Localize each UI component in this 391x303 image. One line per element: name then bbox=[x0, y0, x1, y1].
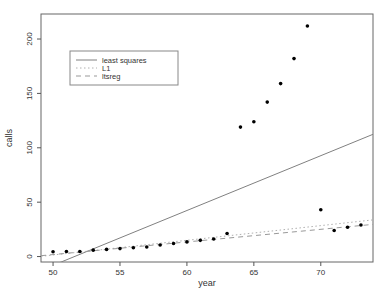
regression-line-L1 bbox=[41, 220, 373, 256]
y-tick-label: 150 bbox=[25, 86, 34, 100]
data-point bbox=[252, 120, 256, 124]
regression-lines bbox=[41, 134, 373, 270]
data-point bbox=[132, 246, 136, 250]
x-tick-label: 50 bbox=[49, 268, 58, 277]
y-tick-label: 100 bbox=[25, 141, 34, 155]
x-tick-label: 60 bbox=[182, 268, 191, 277]
data-point bbox=[306, 24, 310, 28]
data-point bbox=[118, 247, 122, 251]
data-point bbox=[279, 82, 283, 86]
data-point bbox=[65, 250, 69, 254]
data-point bbox=[292, 57, 296, 61]
y-tick-label: 200 bbox=[25, 32, 34, 46]
y-tick-label: 50 bbox=[25, 197, 34, 206]
legend: least squares L1 ltsreg bbox=[70, 51, 178, 85]
y-axis-title: calls bbox=[4, 129, 14, 148]
data-point bbox=[51, 250, 55, 254]
y-tick-label: 0 bbox=[25, 254, 34, 259]
regression-line-ltsreg bbox=[41, 224, 373, 255]
data-point bbox=[91, 248, 95, 252]
data-point bbox=[265, 100, 269, 104]
legend-label-ltsreg: ltsreg bbox=[102, 72, 120, 81]
data-point bbox=[212, 237, 216, 241]
data-point bbox=[78, 250, 82, 254]
data-point bbox=[319, 208, 323, 212]
x-tick-label: 70 bbox=[316, 268, 325, 277]
scatter-plot-figure: 5055606570 050100150200 year calls least… bbox=[0, 0, 391, 303]
data-point bbox=[359, 223, 363, 227]
x-axis: 5055606570 bbox=[49, 262, 326, 277]
data-point bbox=[145, 245, 149, 249]
data-point bbox=[225, 232, 229, 236]
chart-canvas: 5055606570 050100150200 year calls least… bbox=[0, 0, 391, 303]
regression-line-least-squares bbox=[41, 134, 373, 270]
data-point bbox=[172, 242, 176, 246]
x-tick-label: 65 bbox=[249, 268, 258, 277]
y-axis: 050100150200 bbox=[25, 32, 41, 259]
data-point bbox=[158, 243, 162, 247]
data-point bbox=[332, 229, 336, 233]
x-axis-title: year bbox=[198, 278, 216, 288]
data-point bbox=[199, 239, 203, 243]
data-point bbox=[239, 125, 243, 129]
x-tick-label: 55 bbox=[116, 268, 125, 277]
data-point bbox=[185, 240, 189, 244]
data-point bbox=[105, 248, 109, 252]
data-point bbox=[346, 225, 350, 229]
